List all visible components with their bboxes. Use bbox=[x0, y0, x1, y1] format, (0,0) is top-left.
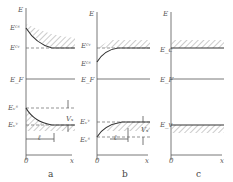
panel-c-ec-label: E_c bbox=[159, 46, 173, 54]
panel-b-conduction-hatch bbox=[97, 40, 150, 48]
panel-b-origin: 0 bbox=[95, 157, 100, 165]
panel-b-evv-label: Eᵥᵛ bbox=[79, 118, 91, 126]
panel-b-vs-label: Vₛ bbox=[141, 126, 149, 134]
panel-b-ef-label: E_F bbox=[80, 76, 96, 84]
panel-c-x-label: x bbox=[220, 157, 224, 165]
panel-a-ecv-label: Eᶜᵛ bbox=[9, 44, 21, 52]
panel-b-conduction-band-curve bbox=[97, 48, 150, 62]
panel-a: E Eᶜˢ Eᶜᵛ E_F Eᵥˢ Eᵥᵛ Vₛ ℓ 0 x a bbox=[7, 6, 75, 179]
panel-b-ecv-label: Eᶜᵛ bbox=[80, 42, 92, 50]
panel-a-origin: 0 bbox=[24, 157, 29, 165]
panel-a-x-label: x bbox=[70, 157, 74, 165]
panel-a-evs-label: Eᵥˢ bbox=[7, 104, 19, 112]
panel-b-ecs-label: Eᶜˢ bbox=[80, 60, 92, 68]
panel-b-y-label: E bbox=[88, 10, 94, 18]
band-diagram-figure: E Eᶜˢ Eᶜᵛ E_F Eᵥˢ Eᵥᵛ Vₛ ℓ 0 x a E bbox=[0, 0, 233, 182]
panel-c-conduction-hatch bbox=[171, 40, 224, 48]
panel-a-y-label: E bbox=[17, 6, 23, 14]
panel-c: E E_c E_F E_v 0 x c bbox=[159, 10, 224, 179]
panel-b: E Eᶜᵛ Eᶜˢ E_F Eᵥᵛ Eᵥˢ Vₛ ℓ 0 x b bbox=[79, 10, 150, 179]
panel-c-ev-label: E_v bbox=[159, 121, 173, 129]
panel-a-evv-label: Eᵥᵛ bbox=[7, 121, 19, 129]
panel-b-evs-label: Eᵥˢ bbox=[79, 136, 91, 144]
panel-b-l-label: ℓ bbox=[113, 134, 117, 142]
panel-c-caption: c bbox=[196, 169, 201, 179]
panel-a-l-label: ℓ bbox=[37, 134, 41, 142]
panel-a-ecs-label: Eᶜˢ bbox=[9, 24, 21, 32]
panel-c-origin: 0 bbox=[169, 157, 174, 165]
panel-c-ef-label: E_F bbox=[159, 76, 175, 84]
panel-b-caption: b bbox=[122, 169, 128, 179]
panel-b-x-label: x bbox=[145, 157, 149, 165]
panel-a-ef-label: E_F bbox=[9, 76, 25, 84]
panel-a-vs-label: Vₛ bbox=[66, 115, 74, 123]
panel-c-y-label: E bbox=[162, 10, 168, 18]
panel-a-caption: a bbox=[48, 169, 54, 179]
panel-c-valence-hatch bbox=[171, 125, 224, 133]
panel-a-conduction-hatch bbox=[26, 24, 75, 48]
